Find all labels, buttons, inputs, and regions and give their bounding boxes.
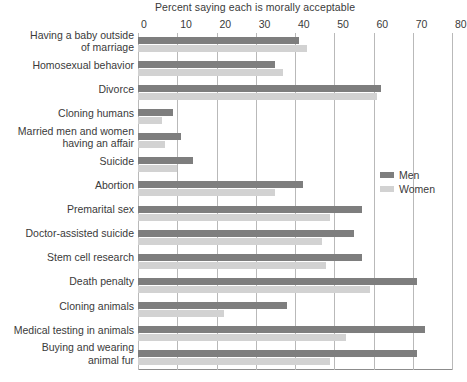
- bar-women: [138, 93, 377, 100]
- bar-women: [138, 214, 330, 221]
- bar-women: [138, 286, 370, 293]
- category-label: Death penalty: [0, 275, 134, 288]
- bar-men: [138, 230, 354, 237]
- category-label: Doctor-assisted suicide: [0, 227, 134, 240]
- bar-group: [138, 202, 452, 226]
- bar-women: [138, 45, 307, 52]
- bar-group: [138, 274, 452, 298]
- x-tick-20: 20: [220, 18, 232, 30]
- bar-men: [138, 254, 362, 261]
- category-label: Abortion: [0, 179, 134, 192]
- legend-item-women: Women: [380, 182, 435, 195]
- legend-swatch-men-icon: [380, 172, 394, 178]
- x-tick-40: 40: [298, 18, 310, 30]
- chart-title: Percent saying each is morally acceptabl…: [0, 1, 464, 13]
- bar-men: [138, 326, 425, 333]
- category-label: Medical testing in animals: [0, 324, 134, 337]
- bar-men: [138, 61, 275, 68]
- x-tick-0: 0: [141, 18, 147, 30]
- x-tick-60: 60: [377, 18, 389, 30]
- bar-men: [138, 278, 417, 285]
- bar-men: [138, 133, 181, 140]
- bar-group: [138, 81, 452, 105]
- category-label: Homosexual behavior: [0, 59, 134, 72]
- x-tick-70: 70: [416, 18, 428, 30]
- plot-area: [138, 33, 452, 370]
- bar-women: [138, 310, 224, 317]
- category-label: Premarital sex: [0, 203, 134, 216]
- bar-men: [138, 85, 381, 92]
- bar-group: [138, 129, 452, 153]
- category-label: Stem cell research: [0, 251, 134, 264]
- category-label: Buying and wearing animal fur: [0, 341, 134, 366]
- bar-men: [138, 206, 362, 213]
- bar-group: [138, 346, 452, 370]
- bar-men: [138, 302, 287, 309]
- bar-group: [138, 226, 452, 250]
- bar-women: [138, 141, 165, 148]
- x-tick-80: 80: [455, 18, 467, 30]
- category-label: Married men and women having an affair: [0, 125, 134, 150]
- bar-men: [138, 109, 173, 116]
- category-label: Cloning animals: [0, 300, 134, 313]
- bar-women: [138, 189, 275, 196]
- bar-women: [138, 117, 162, 124]
- bar-men: [138, 37, 299, 44]
- category-label: Cloning humans: [0, 107, 134, 120]
- legend-item-men: Men: [380, 168, 435, 181]
- bar-women: [138, 334, 346, 341]
- bar-group: [138, 298, 452, 322]
- x-tick-50: 50: [337, 18, 349, 30]
- bar-men: [138, 157, 193, 164]
- legend-swatch-women-icon: [380, 186, 394, 192]
- bar-women: [138, 165, 177, 172]
- category-label: Having a baby outside of marriage: [0, 29, 134, 54]
- category-label: Suicide: [0, 155, 134, 168]
- bar-men: [138, 181, 303, 188]
- bar-group: [138, 250, 452, 274]
- bar-women: [138, 262, 326, 269]
- bar-women: [138, 358, 330, 365]
- bar-group: [138, 322, 452, 346]
- legend-label-women: Women: [399, 183, 435, 195]
- bar-group: [138, 33, 452, 57]
- chart-legend: Men Women: [380, 168, 435, 196]
- bar-women: [138, 238, 322, 245]
- gridline-80: [452, 33, 453, 370]
- x-tick-30: 30: [259, 18, 271, 30]
- bar-group: [138, 105, 452, 129]
- x-tick-10: 10: [180, 18, 192, 30]
- category-labels: Having a baby outside of marriageHomosex…: [0, 33, 134, 370]
- bar-group: [138, 57, 452, 81]
- category-label: Divorce: [0, 83, 134, 96]
- bar-women: [138, 69, 283, 76]
- legend-label-men: Men: [399, 169, 419, 181]
- bar-men: [138, 350, 417, 357]
